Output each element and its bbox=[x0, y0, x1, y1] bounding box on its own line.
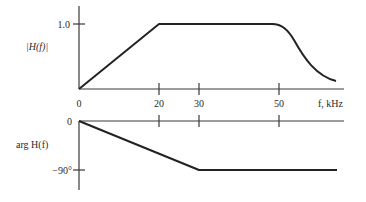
xtick-label-50: 50 bbox=[274, 98, 284, 109]
xtick-label-20: 20 bbox=[154, 98, 164, 109]
x-axis-label: f, kHz bbox=[318, 98, 344, 109]
xtick-label-0: 0 bbox=[77, 98, 82, 109]
frequency-response-figure: 1.0 |H(f)| 0 20 30 50 f, kHz 0 −90° arg … bbox=[0, 0, 366, 202]
phase-curve bbox=[79, 121, 337, 170]
ytick-label-neg-90: −90° bbox=[52, 165, 72, 176]
phase-plot: 0 −90° arg H(f) bbox=[16, 115, 344, 190]
ytick-label-0: 0 bbox=[67, 116, 72, 127]
magnitude-ylabel: |H(f)| bbox=[26, 41, 48, 53]
xtick-label-30: 30 bbox=[194, 98, 204, 109]
ytick-label-1-0: 1.0 bbox=[58, 19, 71, 30]
phase-ylabel: arg H(f) bbox=[16, 139, 48, 151]
magnitude-plot: 1.0 |H(f)| 0 20 30 50 f, kHz bbox=[26, 6, 344, 109]
magnitude-curve bbox=[79, 24, 336, 89]
